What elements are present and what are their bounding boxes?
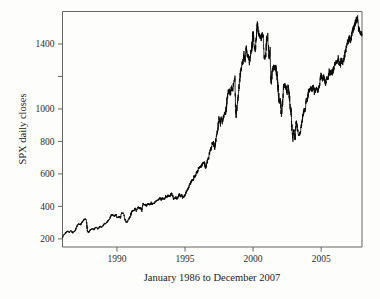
x-tick-label: 2000 (244, 254, 263, 264)
figure-container: 20040060080010001400 1990199520002005 SP… (0, 0, 380, 299)
y-axis-title: SPX daily closes (17, 93, 28, 164)
y-tick-label: 1400 (36, 39, 55, 49)
y-tick-label: 600 (40, 169, 55, 179)
y-tick-label: 800 (40, 137, 55, 147)
y-tick-label: 400 (40, 202, 55, 212)
x-axis-title: January 1986 to December 2007 (144, 272, 280, 283)
x-tick-label: 1990 (107, 254, 126, 264)
x-tick-label: 1995 (176, 254, 195, 264)
spx-line-chart: 20040060080010001400 1990199520002005 SP… (0, 0, 380, 299)
y-tick-label: 200 (40, 234, 55, 244)
y-tick-label: 1000 (36, 104, 55, 114)
x-tick-label: 2005 (312, 254, 331, 264)
